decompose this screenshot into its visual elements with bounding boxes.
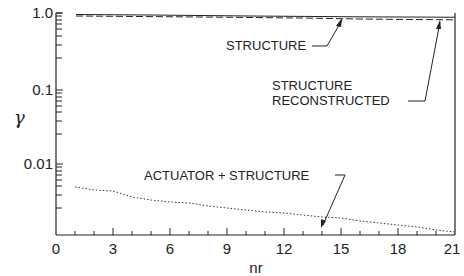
x-tick-label: 9 <box>223 240 231 257</box>
x-tick-label: 3 <box>109 240 117 257</box>
chart: 0 3 6 9 12 15 18 21 0.01 0.1 1.0 nr γ ST… <box>0 0 464 276</box>
x-tick-label: 6 <box>166 240 174 257</box>
y-axis-title: γ <box>14 107 25 128</box>
annotation-reconstructed-line2: RECONSTRUCTED <box>272 93 390 108</box>
y-tick-label: 0.1 <box>32 81 53 98</box>
annotation-structure: STRUCTURE <box>226 38 306 53</box>
x-tick-label: 0 <box>52 240 60 257</box>
series-actuator-structure <box>75 187 455 232</box>
y-tick-label: 0.01 <box>24 155 53 172</box>
y-tick-label: 1.0 <box>32 4 53 21</box>
y-ticks <box>56 13 63 208</box>
x-tick-label: 15 <box>333 240 350 257</box>
x-axis-title: nr <box>249 259 262 276</box>
x-ticks <box>75 228 436 235</box>
annotation-actuator-structure: ACTUATOR + STRUCTURE <box>144 168 310 183</box>
x-tick-label: 21 <box>444 240 461 257</box>
x-tick-label: 18 <box>390 240 407 257</box>
annotation-reconstructed-line1: STRUCTURE <box>272 78 352 93</box>
x-tick-label: 12 <box>276 240 293 257</box>
